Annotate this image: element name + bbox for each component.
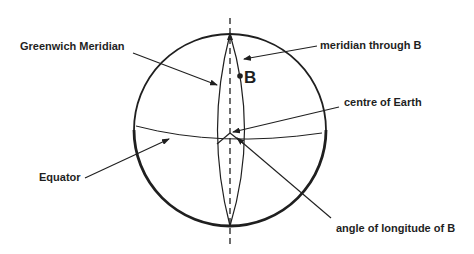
point-b-dot [237, 73, 243, 79]
angle-of-longitude-pointer [237, 138, 331, 218]
equator-curve [136, 126, 322, 139]
centre-of-earth-label: centre of Earth [344, 97, 422, 108]
point-b-label: B [244, 69, 256, 86]
equator-pointer [85, 139, 169, 178]
greenwich-meridian-pointer [133, 53, 217, 85]
meridian-through-b-label: meridian through B [320, 40, 421, 51]
equator-label: Equator [39, 172, 81, 183]
earth-longitude-diagram: Greenwich Meridian meridian through B B … [0, 0, 474, 254]
centre-of-earth-pointer [233, 107, 339, 132]
greenwich-meridian-curve [218, 34, 231, 226]
angle-of-longitude-label: angle of longitude of B [336, 223, 455, 234]
greenwich-meridian-label: Greenwich Meridian [20, 41, 125, 52]
